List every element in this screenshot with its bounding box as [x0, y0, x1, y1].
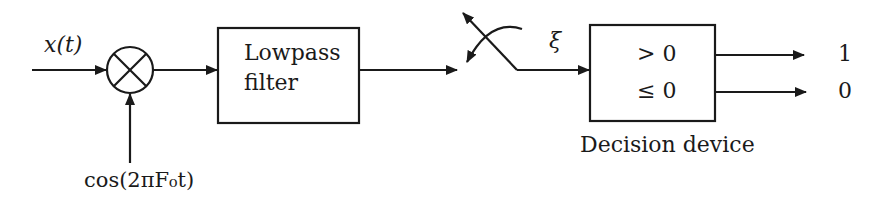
input-label: x(t)	[44, 34, 82, 56]
output-label-1: 1	[838, 43, 852, 65]
decision-rule-bottom: ≤ 0	[637, 80, 676, 102]
lowpass-label-line2: filter	[244, 72, 298, 94]
lowpass-label-line1: Lowpass	[244, 42, 340, 64]
mixer-icon	[107, 47, 153, 93]
decision-caption: Decision device	[580, 134, 755, 156]
decision-device-block	[590, 25, 715, 121]
sampler-switch-icon	[463, 13, 522, 70]
output-label-0: 0	[838, 80, 852, 102]
sample-label: ξ	[549, 30, 561, 52]
decision-rule-top: > 0	[637, 43, 676, 65]
carrier-label: cos(2πF₀t)	[84, 170, 194, 191]
